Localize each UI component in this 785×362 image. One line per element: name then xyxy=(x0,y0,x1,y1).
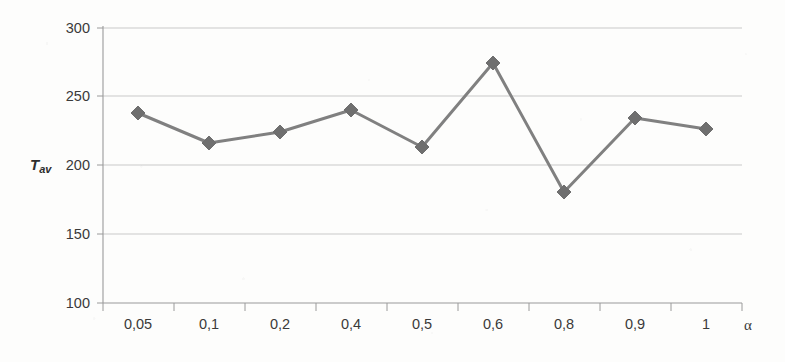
y-tick-label: 200 xyxy=(66,157,90,173)
line-chart: 300 250 200 150 100 0,05 0,1 0,2 0,4 0,5… xyxy=(0,0,785,362)
x-tick-label: 0,5 xyxy=(412,316,432,332)
y-tick-label: 100 xyxy=(66,295,90,311)
data-point-marker xyxy=(344,103,358,117)
x-tick-label: 0,1 xyxy=(199,316,219,332)
x-tick-label: 0,4 xyxy=(341,316,361,332)
y-tick-label: 150 xyxy=(66,226,90,242)
data-point-marker xyxy=(273,125,287,139)
data-point-marker xyxy=(699,122,713,136)
y-tick-label: 300 xyxy=(66,20,90,36)
x-tick-label: 0,6 xyxy=(483,316,503,332)
x-axis-title: α xyxy=(744,317,752,333)
x-tick-label: 0,8 xyxy=(554,316,574,332)
x-tick-label: 0,9 xyxy=(625,316,645,332)
y-tick-label: 250 xyxy=(66,88,90,104)
gridlines xyxy=(103,28,742,234)
x-tick-label: 1 xyxy=(702,316,710,332)
data-point-marker xyxy=(131,106,145,120)
y-tick-labels: 300 250 200 150 100 xyxy=(66,20,90,311)
chart-figure: 300 250 200 150 100 0,05 0,1 0,2 0,4 0,5… xyxy=(0,0,785,362)
x-tick-labels: 0,05 0,1 0,2 0,4 0,5 0,6 0,8 0,9 1 xyxy=(124,316,710,332)
y-axis-title: Tav xyxy=(30,156,52,175)
data-point-marker xyxy=(202,136,216,150)
x-tick-marks xyxy=(103,303,742,311)
y-axis-title-sub: av xyxy=(39,163,52,175)
y-tick-marks xyxy=(97,28,103,303)
series-line-tav xyxy=(138,63,706,192)
x-tick-label: 0,2 xyxy=(270,316,290,332)
x-tick-label: 0,05 xyxy=(124,316,152,332)
